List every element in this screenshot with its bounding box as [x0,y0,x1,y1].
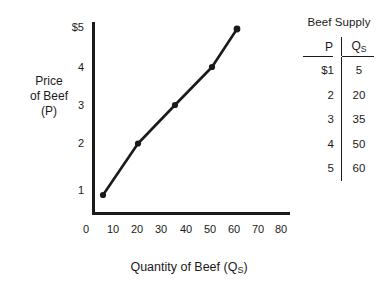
table-row: 2 20 [303,83,375,108]
data-point-p2-q20 [135,140,141,146]
table-cell-price: 5 [303,157,342,182]
data-point-p3-q35 [172,102,178,108]
x-axis-title-main: Quantity of Beef (Q [130,260,237,274]
y-tick-label-4: 4 [58,62,84,73]
y-tick-label-1: 1 [58,185,84,196]
x-axis-title: Quantity of Beef (QS) [93,260,285,275]
x-tick-label-30: 30 [152,224,170,235]
table-title: Beef Supply [296,16,382,28]
table-cell-quantity: 60 [342,157,376,182]
table-cell-price: 3 [303,108,342,133]
table-row: 5 60 [303,157,375,182]
x-tick-label-20: 20 [128,224,146,235]
table-cell-price: $1 [303,57,342,83]
supply-curve-line [103,29,237,195]
y-axis-title-line-3: (P) [12,104,86,119]
y-tick-label-5: $5 [58,22,84,33]
data-point-p1-q5 [100,192,106,198]
plot-canvas [0,0,300,294]
table-cell-price: 2 [303,83,342,108]
y-axis-title-line-1: Price [12,74,86,89]
table-header-price: P [303,37,342,56]
y-tick-label-2: 2 [58,138,84,149]
x-tick-label-0: 0 [79,224,93,235]
table-header-quantity-main: Q [351,39,360,53]
supply-curve-figure: $5 4 3 2 1 0 10 20 30 40 50 60 70 80 Pri… [0,0,383,294]
x-tick-label-60: 60 [225,224,243,235]
x-tick-label-80: 80 [272,224,290,235]
x-tick-label-10: 10 [104,224,122,235]
table-header-quantity-subscript: S [361,44,367,54]
y-axis-title: Price of Beef (P) [12,74,86,119]
x-axis-title-close: ) [243,260,247,274]
x-tick-label-50: 50 [201,224,219,235]
table-row: $1 5 [303,57,375,83]
beef-supply-table: Beef Supply P QS $1 5 2 20 [296,16,382,181]
table-cell-quantity: 5 [342,57,376,83]
data-point-p5-q60 [234,26,241,33]
x-tick-label-40: 40 [177,224,195,235]
data-point-p4-q50 [209,64,215,70]
table-cell-quantity: 50 [342,132,376,157]
table-cell-quantity: 20 [342,83,376,108]
x-tick-label-70: 70 [249,224,267,235]
table-header-quantity: QS [342,37,376,56]
table-header-row: P QS [303,37,375,56]
table-cell-quantity: 35 [342,108,376,133]
table-row: 4 50 [303,132,375,157]
table-cell-price: 4 [303,132,342,157]
table-head: P QS [303,37,375,57]
table-row: 3 35 [303,108,375,133]
y-axis-title-line-2: of Beef [12,89,86,104]
chart-area: $5 4 3 2 1 0 10 20 30 40 50 60 70 80 Pri… [0,0,300,294]
supply-schedule-table: P QS $1 5 2 20 3 35 [303,37,375,181]
table-body: $1 5 2 20 3 35 4 50 5 60 [303,57,375,181]
